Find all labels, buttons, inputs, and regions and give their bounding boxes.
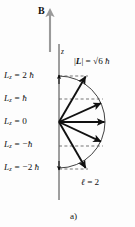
lz-equals: = [12,116,22,126]
ell-label: ℓ = 2 [81,178,99,187]
lz-value: 2 [22,70,27,80]
magnitude-radical: √6 [93,56,103,66]
lz-label-m0: Lz = 0 [4,117,27,126]
lz-equals: = [12,70,22,80]
angular-momentum-figure: B z |L| = √6 ħ ℓ = 2 Lz = 2 ħ Lz = ħ Lz … [0,0,135,227]
lz-hbar: ħ [35,162,40,172]
lz-equals: = [12,139,22,149]
magnetic-field-label: B [38,6,45,16]
angular-momentum-vectors [59,76,105,168]
magnitude-label: |L| = √6 ħ [74,57,110,66]
ell-value: 2 [95,177,100,187]
lz-hbar: ħ [29,70,34,80]
vector-model-diagram [0,0,135,227]
lz-hbar: ħ [22,93,27,103]
ell-equals: = [85,177,95,187]
magnitude-hbar: ħ [103,56,110,66]
lz-label-m1: Lz = ħ [4,94,27,103]
lz-label-m-minus1: Lz = −ħ [4,140,33,149]
figure-caption: a) [70,212,77,221]
lz-equals: = [12,93,22,103]
magnitude-equals: = [83,56,93,66]
lz-value: 0 [22,116,27,126]
lz-label-m2: Lz = 2 ħ [4,71,34,80]
z-axis-label: z [61,48,64,55]
lz-hbar: ħ [28,139,33,149]
lz-equals: = [12,162,22,172]
lz-value: 2 [28,162,33,172]
lz-label-m-minus2: Lz = −2 ħ [4,163,39,172]
